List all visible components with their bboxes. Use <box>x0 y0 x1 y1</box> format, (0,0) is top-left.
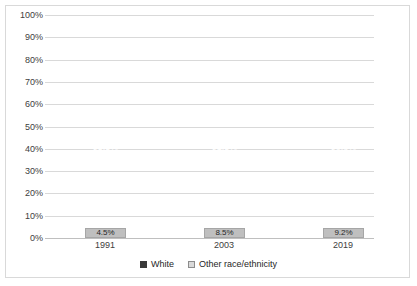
gridline <box>45 171 374 172</box>
y-axis-tick: 0% <box>9 233 43 243</box>
x-axis-tick-1991: 1991 <box>65 240 145 250</box>
bar-label-white: 91.5% <box>212 143 238 152</box>
bar-group[interactable]: 8.5% 91.5% <box>204 228 245 238</box>
bar-label-white: 95.5% <box>93 143 119 152</box>
y-axis-tick: 30% <box>9 166 43 176</box>
bar-group[interactable]: 4.5% 95.5% <box>85 228 126 238</box>
legend-swatch-icon <box>188 261 195 268</box>
legend-label: White <box>151 259 174 269</box>
y-axis-tick: 10% <box>9 211 43 221</box>
bar-segment-other[interactable]: 8.5% <box>204 228 245 238</box>
bar-segment-other[interactable]: 9.2% <box>323 228 364 238</box>
gridline <box>45 127 374 128</box>
bar-group[interactable]: 9.2% 90.8% <box>323 228 364 238</box>
bar-label-other: 8.5% <box>215 229 233 237</box>
y-axis-tick: 80% <box>9 55 43 65</box>
gridline <box>45 216 374 217</box>
y-axis-tick: 50% <box>9 122 43 132</box>
y-axis-tick: 90% <box>9 32 43 42</box>
bar-segment-other[interactable]: 4.5% <box>85 228 126 238</box>
y-axis-tick: 40% <box>9 144 43 154</box>
legend-swatch-icon <box>140 261 147 268</box>
gridline <box>45 15 374 16</box>
chart-frame: 100% 90% 80% 70% 60% 50% 40% 30% 20% 10%… <box>5 5 410 278</box>
plot-area: 4.5% 95.5% 8.5% 91.5% 9.2% 90.8% <box>45 15 374 238</box>
y-axis-tick: 100% <box>9 10 43 20</box>
y-axis: 100% 90% 80% 70% 60% 50% 40% 30% 20% 10%… <box>6 15 43 238</box>
x-axis: 1991 2003 2019 <box>45 240 374 256</box>
legend-item-white[interactable]: White <box>140 259 174 269</box>
y-axis-tick: 70% <box>9 77 43 87</box>
gridline-baseline <box>45 238 374 239</box>
gridline <box>45 82 374 83</box>
legend-label: Other race/ethnicity <box>199 259 277 269</box>
gridline <box>45 104 374 105</box>
gridline <box>45 60 374 61</box>
gridline <box>45 193 374 194</box>
y-axis-tick: 60% <box>9 99 43 109</box>
bar-label-white: 90.8% <box>331 143 357 152</box>
gridline <box>45 37 374 38</box>
y-axis-tick: 20% <box>9 188 43 198</box>
legend-item-other[interactable]: Other race/ethnicity <box>188 259 277 269</box>
bar-label-other: 9.2% <box>334 229 352 237</box>
chart-legend: White Other race/ethnicity <box>6 259 411 269</box>
bar-label-other: 4.5% <box>96 229 114 237</box>
x-axis-tick-2003: 2003 <box>184 240 264 250</box>
x-axis-tick-2019: 2019 <box>303 240 383 250</box>
